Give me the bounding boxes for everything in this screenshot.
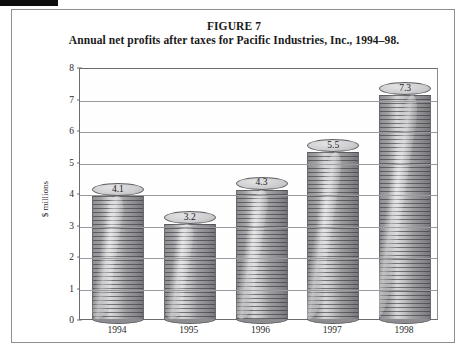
gridline [80, 227, 437, 228]
figure-container: FIGURE 7 Annual net profits after taxes … [11, 9, 455, 343]
y-axis-tick-label: 3 [69, 221, 74, 231]
bar-value-label: 4.3 [256, 178, 268, 188]
page-corner-mark [0, 0, 58, 6]
bar-body [307, 152, 359, 319]
bar-cylinder: 5.5 [307, 146, 359, 319]
y-axis-tick-label: 1 [69, 284, 74, 294]
plot-area: 4.13.24.35.57.3 [79, 68, 438, 320]
gridline [80, 290, 437, 291]
y-axis-tick-label: 0 [69, 315, 74, 325]
gridline [80, 164, 437, 165]
bar-top-ellipse: 4.1 [92, 183, 144, 196]
y-axis-tick-label: 8 [69, 63, 74, 73]
x-axis-tick-label: 1998 [378, 325, 430, 335]
bar-cylinder: 7.3 [379, 89, 431, 319]
bar-body [164, 224, 216, 319]
bars-layer: 4.13.24.35.57.3 [80, 69, 437, 319]
y-axis-title: $ millions [40, 181, 50, 217]
figure-title: Annual net profits after taxes for Pacif… [12, 33, 456, 47]
bar-body [379, 95, 431, 319]
figure-caption: FIGURE 7 Annual net profits after taxes … [12, 19, 456, 47]
figure-number: FIGURE 7 [12, 19, 456, 33]
bar-cylinder: 3.2 [164, 218, 216, 319]
y-axis-tick-label: 4 [69, 189, 74, 199]
x-axis-tick-label: 1995 [163, 325, 215, 335]
bar-top-ellipse: 3.2 [164, 211, 216, 224]
bar-value-label: 7.3 [399, 84, 411, 94]
bar-top-ellipse: 5.5 [307, 139, 359, 152]
x-axis-tick-label: 1997 [306, 325, 358, 335]
x-axis-tick-label: 1994 [91, 325, 143, 335]
bar-cylinder: 4.1 [92, 190, 144, 319]
bar-value-label: 3.2 [184, 213, 196, 223]
bar-value-label: 5.5 [327, 141, 339, 151]
gridline [80, 195, 437, 196]
x-axis-tick-labels: 19941995199619971998 [79, 322, 438, 342]
bar-top-ellipse: 7.3 [379, 82, 431, 95]
bar-cylinder: 4.3 [236, 184, 288, 319]
x-axis-tick-label: 1996 [235, 325, 287, 335]
y-axis-tick-label: 6 [69, 126, 74, 136]
y-axis-tick-label: 5 [69, 158, 74, 168]
bar-value-label: 4.1 [112, 185, 124, 195]
chart-plot: $ millions 876543210 4.13.24.35.57.3 199… [57, 68, 439, 330]
gridline [80, 258, 437, 259]
bar-body [236, 190, 288, 319]
y-axis-tick-label: 7 [69, 95, 74, 105]
y-axis-tick-label: 2 [69, 252, 74, 262]
y-axis-tick-labels: 876543210 [57, 68, 77, 320]
gridline [80, 132, 437, 133]
gridline [80, 101, 437, 102]
bar-top-ellipse: 4.3 [236, 177, 288, 190]
